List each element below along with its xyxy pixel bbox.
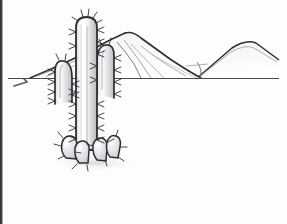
cactus-desert-illustration [0, 0, 287, 224]
paper-background [0, 0, 287, 224]
cactus-left-arm [55, 61, 72, 104]
drawing-canvas [0, 0, 287, 224]
page-left-border [0, 0, 3, 224]
